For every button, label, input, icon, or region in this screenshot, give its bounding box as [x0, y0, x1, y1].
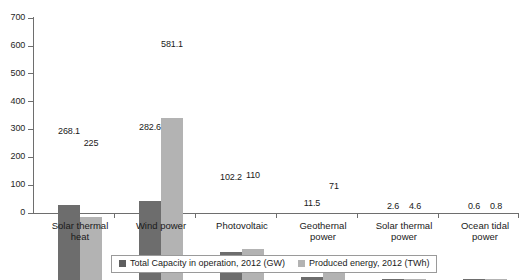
category-line-1: Solar thermal — [362, 220, 446, 231]
legend-label-produced-energy: Produced energy, 2012 (TWh) — [309, 258, 429, 269]
y-axis-line — [33, 17, 34, 214]
legend-item-produced-energy[interactable]: Produced energy, 2012 (TWh) — [298, 258, 429, 269]
y-axis-label-700: 700 — [0, 13, 25, 22]
x-axis-tick-6 — [518, 214, 519, 218]
category-line-2: power — [281, 231, 365, 242]
bar-value-geothermal-power-capacity: 11.5 — [291, 198, 333, 208]
category-line-2: power — [443, 231, 525, 242]
x-axis-tick-1 — [114, 214, 115, 218]
y-axis-label-300: 300 — [0, 124, 25, 133]
bar-value-ocean-tidal-power-energy: 0.8 — [475, 201, 517, 211]
category-line-1: Geothernal — [281, 220, 365, 231]
x-axis-category-solar-thermal-power: Solar thermal power — [362, 220, 446, 242]
category-line-1: Ocean tidal — [443, 220, 525, 231]
legend-swatch-icon-energy — [298, 260, 305, 267]
y-axis-label-500: 500 — [0, 69, 25, 78]
bar-value-wind-power-capacity: 282.6 — [129, 122, 171, 132]
bar-value-wind-power-energy: 581.1 — [151, 39, 193, 49]
legend-label-total-capacity: Total Capacity in operation, 2012 (GW) — [130, 258, 285, 269]
bar-value-solar-thermal-power-energy: 4.6 — [394, 201, 436, 211]
category-line-1: Wind power — [119, 220, 203, 231]
bar-value-geothermal-power-energy: 71 — [313, 181, 355, 191]
legend-swatch-icon-capacity — [119, 260, 126, 267]
x-axis-category-wind-power: Wind power — [119, 220, 203, 231]
bar-group-solar-thermal-power — [382, 85, 426, 280]
x-axis-category-geothermal-power: Geothernal power — [281, 220, 365, 242]
x-axis-tick-4 — [357, 214, 358, 218]
y-axis-label-200: 200 — [0, 152, 25, 161]
category-line-1: Photovoltaic — [200, 220, 284, 231]
category-line-2: heat — [38, 231, 122, 242]
bar-chart: 700 600 500 400 300 200 100 0 268.1 225 … — [0, 0, 525, 280]
bar-value-solar-thermal-heat-capacity: 268.1 — [48, 126, 90, 136]
x-axis-category-photovoltaic: Photovoltaic — [200, 220, 284, 231]
bar-group-photovoltaic — [220, 85, 264, 280]
legend-item-total-capacity[interactable]: Total Capacity in operation, 2012 (GW) — [119, 258, 285, 269]
y-axis-label-600: 600 — [0, 41, 25, 50]
bar-value-solar-thermal-heat-energy: 225 — [70, 138, 112, 148]
x-axis-category-ocean-tidal-power: Ocean tidal power — [443, 220, 525, 242]
y-axis-label-100: 100 — [0, 180, 25, 189]
x-axis-category-solar-thermal-heat: Solar thermal heat — [38, 220, 122, 242]
category-line-1: Solar thermal — [38, 220, 122, 231]
x-axis-tick-5 — [438, 214, 439, 218]
category-line-2: power — [362, 231, 446, 242]
bar-value-photovoltaic-energy: 110 — [232, 170, 274, 180]
chart-legend: Total Capacity in operation, 2012 (GW) P… — [111, 255, 437, 273]
bar-group-solar-thermal-heat — [58, 85, 102, 280]
bar-group-wind-power — [139, 85, 183, 280]
bar-solar-thermal-heat-capacity[interactable] — [58, 205, 80, 280]
x-axis-tick-3 — [276, 214, 277, 218]
x-axis-tick-2 — [195, 214, 196, 218]
bar-group-ocean-tidal-power — [463, 85, 507, 280]
y-axis-label-400: 400 — [0, 97, 25, 106]
y-axis-label-0: 0 — [0, 208, 25, 217]
